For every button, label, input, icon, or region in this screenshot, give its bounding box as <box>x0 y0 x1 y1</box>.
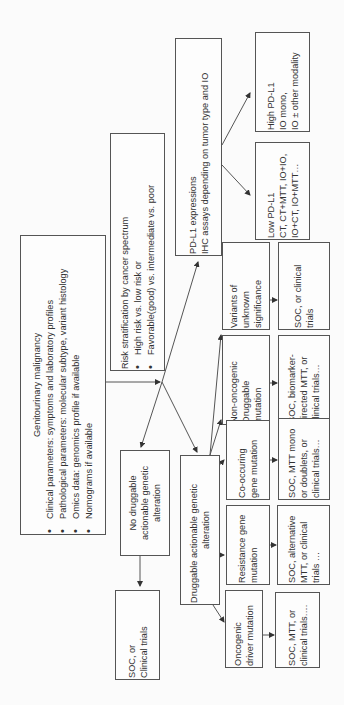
outcome-line: SOC, MTT, or <box>286 594 298 666</box>
risk-stratification-box: Risk stratification by cancer spectrum H… <box>110 133 165 371</box>
branch-line: unknown <box>240 244 252 328</box>
pdl1-line: IHC assays depending on tumor type and I… <box>199 40 211 254</box>
no-druggable-line: actionable genetic <box>139 452 151 554</box>
branch-line: mutation <box>252 337 264 423</box>
outcome-line: or doublets, or <box>298 420 310 498</box>
high-pdl1-line: IO mono, <box>277 34 289 130</box>
root-title: Genitourinary malignancy <box>31 237 43 533</box>
outcome-line: SOC, or <box>126 592 138 678</box>
outcome-line: SOC, alternative <box>286 507 298 583</box>
branch-line: Resistance gene <box>236 507 248 583</box>
outcome-line: trials <box>304 244 316 328</box>
branch-oncogenic-box: Oncogenic driver mutation <box>225 590 263 668</box>
outcome-line: clinical trials… <box>310 337 322 423</box>
outcome-co-occuring-box: SOC, MTT mono or doublets, or clinical t… <box>278 418 330 500</box>
branch-line: Oncogenic <box>232 592 244 666</box>
outcome-line: clinical trials… <box>310 420 322 498</box>
no-druggable-outcome-box: SOC, or Clinical trials <box>115 590 160 680</box>
outcome-line: clinical trials…. <box>298 594 310 666</box>
high-pdl1-line: High PD-L1 <box>265 34 277 130</box>
branch-line: Non-oncogenic <box>228 337 240 423</box>
outcome-line: SOC, MTT mono <box>286 420 298 498</box>
low-pdl1-line: IO+CT, IO+MTT… <box>289 144 301 238</box>
root-bullet: Clinical parameters: symptoms and labora… <box>43 237 56 533</box>
root-bullet: Pathological parameters: molecular subty… <box>56 237 69 533</box>
pdl1-expressions-box: PD-L1 expressions IHC assays depending o… <box>175 38 222 256</box>
low-pdl1-box: Low PD-L1 CT, CT+MTT, IO+IO, IO+CT, IO+M… <box>255 142 310 240</box>
high-pdl1-line: IO ± other modality <box>289 34 301 130</box>
outcome-line: MTT, or clinical <box>298 507 310 583</box>
no-druggable-line: No druggable <box>127 452 139 554</box>
branch-line: significance <box>252 244 264 328</box>
branch-line: driver mutation <box>244 592 256 666</box>
branch-line: Co-occuring <box>236 422 248 498</box>
low-pdl1-line: CT, CT+MTT, IO+IO, <box>277 144 289 238</box>
pdl1-line: PD-L1 expressions <box>187 40 199 254</box>
outcome-line: trials … <box>310 507 322 583</box>
druggable-line: Druggable actionable genetic <box>188 457 200 603</box>
outcome-vus-box: SOC, or clinical trials <box>278 242 330 330</box>
risk-bullet: Favorable(good) vs. intermediate vs. poo… <box>144 135 157 369</box>
no-druggable-line: alteration <box>151 452 163 554</box>
branch-co-occuring-box: Co-occuring gene mutation <box>226 420 270 500</box>
branch-line: Variants of <box>228 244 240 328</box>
druggable-box: Druggable actionable genetic alteration <box>180 455 220 605</box>
branch-resistance-box: Resistance gene mutation <box>226 505 270 585</box>
risk-bullet: High risk vs. low risk or <box>131 135 144 369</box>
outcome-line: SOC, or clinical <box>292 244 304 328</box>
outcome-line: Clinical trials <box>138 592 150 678</box>
root-genitourinary-box: Genitourinary malignancy Clinical parame… <box>20 235 106 535</box>
outcome-resistance-box: SOC, alternative MTT, or clinical trials… <box>277 505 330 585</box>
branch-line: gene mutation <box>248 422 260 498</box>
outcome-non-oncogenic-box: SOC, biomarker- directed MTT, or clinica… <box>278 335 330 425</box>
druggable-line: alteration <box>200 457 212 603</box>
high-pdl1-box: High PD-L1 IO mono, IO ± other modality <box>255 32 310 132</box>
branch-non-oncogenic-box: Non-oncogenic Druggable mutation <box>222 335 270 425</box>
branch-line: mutation <box>248 507 260 583</box>
no-druggable-box: No druggable actionable genetic alterati… <box>120 450 170 556</box>
branch-vus-box: Variants of unknown significance <box>222 242 270 330</box>
root-bullet: Nomograms if available <box>82 237 95 533</box>
branch-line: Druggable <box>240 337 252 423</box>
low-pdl1-line: Low PD-L1 <box>265 144 277 238</box>
root-bullet: Omics data: genomics profile if availabl… <box>69 237 82 533</box>
risk-title: Risk stratification by cancer spectrum <box>119 135 131 369</box>
outcome-line: SOC, biomarker- <box>286 337 298 423</box>
outcome-oncogenic-box: SOC, MTT, or clinical trials…. <box>275 592 320 668</box>
outcome-line: directed MTT, or <box>298 337 310 423</box>
